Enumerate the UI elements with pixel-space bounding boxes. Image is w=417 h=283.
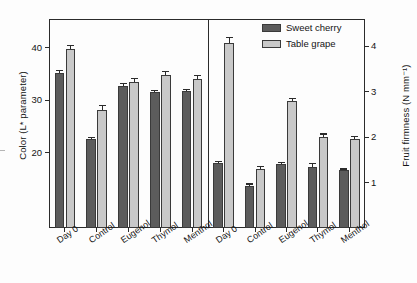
y-tick-label-right-1: 1 [371,177,401,188]
error-bar-cap [162,71,169,72]
error-bar-cap [88,137,95,138]
legend-item-table-grape: Table grape [262,37,341,50]
bar-left-eugenol-sweet-cherry [118,86,128,228]
y-tick-label-left-40: 40 [2,42,42,53]
y-tick-label-right-3: 3 [371,86,401,97]
error-bar-cap [151,90,158,91]
bar-left-menthol-table-grape [193,79,203,228]
bar-right-menthol-table-grape [350,139,360,228]
bar-left-menthol-sweet-cherry [182,91,192,228]
error-bar-cap [194,75,201,76]
bar-right-thymol-sweet-cherry [308,167,318,228]
error-bar-cap [226,37,233,38]
bar-left-day-0-sweet-cherry [55,73,65,228]
bar-right-thymol-table-grape [319,137,329,228]
bar-right-control-table-grape [256,169,266,228]
error-bar-cap [340,168,347,169]
y-axis-title-right: Fruit firmness (N mm⁻¹) [400,51,411,181]
y-tick-right-3 [365,91,369,92]
error-bar-cap [131,78,138,79]
y-tick-label-right-2: 2 [371,131,401,142]
legend-item-sweet-cherry: Sweet cherry [262,21,341,34]
bar-right-control-sweet-cherry [245,186,255,228]
error-bar-cap [99,105,106,106]
y-tick-left-20 [45,152,49,153]
y-tick-left-40 [45,47,49,48]
error-bar-cap [257,166,264,167]
error-bar-cap [67,45,74,46]
error-bar-cap [278,162,285,163]
y-tick-label-left-20: 20 [2,147,42,158]
y-tick-left-30 [45,100,49,101]
bar-left-day-0-table-grape [66,49,76,228]
error-bar-cap [246,183,253,184]
error-bar-cap [215,161,222,162]
bar-left-thymol-sweet-cherry [150,92,160,228]
legend: Sweet cherry Table grape [262,21,341,53]
error-bar-cap [120,83,127,84]
bar-right-eugenol-sweet-cherry [276,164,286,228]
bar-left-control-sweet-cherry [86,139,96,228]
legend-label-sweet-cherry: Sweet cherry [286,22,341,33]
legend-label-table-grape: Table grape [286,38,336,49]
error-bar-cap [56,70,63,71]
bar-left-control-table-grape [97,110,107,228]
y-tick-right-4 [365,46,369,47]
bar-right-menthol-sweet-cherry [339,170,349,228]
bar-right-day-0-sweet-cherry [213,163,223,228]
legend-swatch-table-grape [262,40,281,48]
y-tick-right-1 [365,182,369,183]
bar-left-eugenol-table-grape [129,82,139,228]
error-bar-cap [320,133,327,134]
bar-right-day-0-table-grape [224,43,234,228]
error-bar-cap [183,89,190,90]
y-tick-label-left-30: 30 [2,94,42,105]
error-bar-cap [309,163,316,164]
figure-canvas: Color (L* parameter) Fruit firmness (N m… [0,0,417,283]
y-tick-label-right-4: 4 [371,40,401,51]
y-tick-right-2 [365,137,369,138]
error-bar-cap [351,136,358,137]
legend-swatch-sweet-cherry [262,24,281,32]
bar-right-eugenol-table-grape [287,101,297,228]
error-bar-cap [289,98,296,99]
bar-left-thymol-table-grape [161,75,171,228]
